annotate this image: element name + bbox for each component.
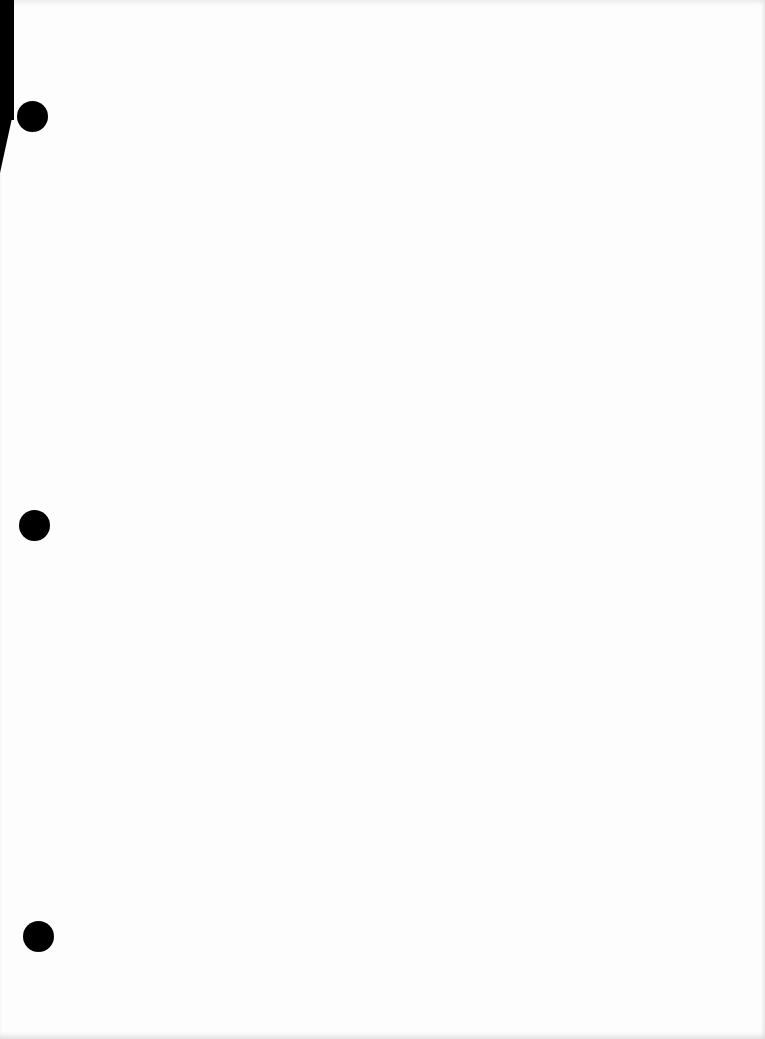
punch-hole-top (17, 101, 48, 132)
scan-edge-shadow (0, 0, 14, 120)
scan-edge-shadow-tail (0, 118, 12, 173)
punch-hole-middle (19, 510, 50, 541)
scanned-page (0, 0, 765, 1039)
punch-hole-bottom (23, 921, 54, 952)
